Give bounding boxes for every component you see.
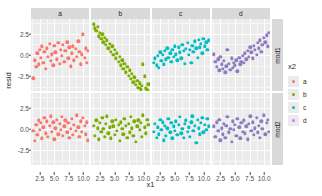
gridline-horizontal: [152, 87, 210, 88]
y-tick-label: 2.5: [0, 30, 29, 37]
data-point: [167, 56, 170, 59]
data-point: [96, 25, 99, 28]
data-point: [257, 124, 260, 127]
data-point: [212, 125, 215, 128]
data-point: [69, 127, 72, 130]
gridline-horizontal: [91, 76, 149, 77]
legend-item-c[interactable]: c: [288, 101, 322, 114]
data-point: [252, 44, 255, 47]
panel-mod1-b: [91, 19, 149, 91]
data-point: [46, 55, 49, 58]
gridline-horizontal: [212, 150, 270, 151]
data-point: [147, 82, 150, 85]
data-point: [84, 132, 87, 135]
gridline-horizontal: [31, 76, 89, 77]
data-point: [265, 34, 268, 37]
data-point: [177, 123, 180, 126]
gridline-horizontal: [31, 140, 89, 141]
data-point: [175, 133, 178, 136]
legend-title: x2: [288, 62, 322, 71]
data-point: [235, 58, 238, 61]
data-point: [64, 49, 67, 52]
legend-dot-icon: [292, 106, 296, 110]
data-point: [230, 57, 233, 60]
legend-item-a[interactable]: a: [288, 75, 322, 88]
data-point: [236, 70, 239, 73]
data-point: [233, 64, 236, 67]
data-point: [191, 44, 194, 47]
legend-key: [288, 76, 299, 87]
panel-mod1-a: [31, 19, 89, 91]
column-strip-a: a: [31, 8, 89, 19]
data-point: [153, 57, 156, 60]
data-point: [188, 135, 191, 138]
gridline-horizontal: [91, 44, 149, 45]
gridline-horizontal: [31, 87, 89, 88]
data-point: [244, 125, 247, 128]
data-point: [235, 134, 238, 137]
panel-row-mod2: [31, 93, 270, 165]
panel-mod2-b: [91, 93, 149, 165]
data-point: [184, 119, 187, 122]
data-point: [71, 133, 74, 136]
data-point: [86, 49, 89, 52]
data-point: [61, 134, 64, 137]
gridline-horizontal: [212, 34, 270, 35]
data-point: [244, 58, 247, 61]
data-point: [45, 120, 48, 123]
data-point: [195, 141, 198, 144]
data-point: [36, 133, 39, 136]
data-point: [242, 119, 245, 122]
x-axis-label: x1: [31, 180, 270, 189]
data-point: [161, 53, 164, 56]
data-point: [160, 128, 163, 131]
data-point: [43, 50, 46, 53]
data-point: [216, 58, 219, 61]
data-point: [227, 131, 230, 134]
data-point: [243, 132, 246, 135]
row-strip-mod1: mod1: [272, 19, 283, 91]
row-strip-label: mod1: [274, 47, 281, 63]
gridline-horizontal: [91, 108, 149, 109]
data-point: [183, 122, 186, 125]
legend-dot-icon: [292, 119, 296, 123]
data-point: [92, 124, 95, 127]
data-point: [167, 117, 170, 120]
y-tick-label: -2.5: [0, 73, 29, 80]
data-point: [214, 60, 217, 63]
legend-items: abcd: [288, 75, 322, 127]
data-point: [266, 45, 269, 48]
data-point: [233, 123, 236, 126]
data-point: [60, 54, 63, 57]
data-point: [93, 134, 96, 137]
column-strip-d: d: [212, 8, 270, 19]
legend-label: a: [303, 78, 307, 85]
legend-item-d[interactable]: d: [288, 114, 322, 127]
data-point: [35, 123, 38, 126]
data-point: [181, 127, 184, 130]
data-point: [231, 66, 234, 69]
legend-item-b[interactable]: b: [288, 88, 322, 101]
gridline-horizontal: [31, 108, 89, 109]
data-point: [199, 42, 202, 45]
column-strip-row: abcd: [31, 8, 270, 19]
data-point: [171, 48, 174, 51]
data-point: [255, 53, 258, 56]
data-point: [32, 76, 35, 79]
data-point: [214, 135, 217, 138]
data-point: [138, 128, 141, 131]
data-point: [86, 138, 89, 141]
y-tick-label: 2.5: [0, 104, 29, 111]
data-point: [39, 121, 42, 124]
panel-mod1-d: [212, 19, 270, 91]
data-point: [55, 118, 58, 121]
data-point: [222, 59, 225, 62]
panel-mod2-a: [31, 93, 89, 165]
data-point: [92, 22, 95, 25]
data-point: [75, 55, 78, 58]
gridline-horizontal: [31, 66, 89, 67]
data-point: [79, 120, 82, 123]
data-point: [123, 117, 126, 120]
data-point: [62, 125, 65, 128]
data-point: [152, 130, 155, 133]
